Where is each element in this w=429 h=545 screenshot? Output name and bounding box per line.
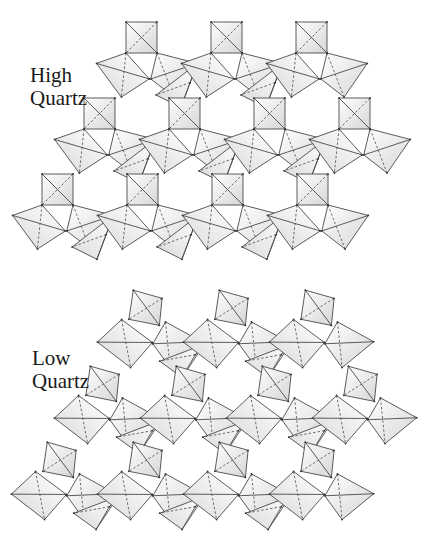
tetrahedron	[343, 365, 378, 402]
tetrahedron	[12, 204, 67, 250]
high-quartz-label-line1: High	[30, 64, 87, 87]
low-quartz-label-line2: Quartz	[32, 370, 89, 393]
tetrahedron	[257, 365, 292, 402]
tetrahedron	[324, 473, 375, 520]
tetrahedron	[54, 395, 111, 445]
tetrahedron	[83, 97, 116, 130]
high-quartz-label: High Quartz	[30, 64, 87, 110]
tetrahedron	[128, 289, 163, 326]
tetrahedron	[211, 173, 244, 206]
high-quartz-label-line2: Quartz	[30, 87, 87, 110]
high-quartz-framework	[12, 21, 412, 260]
tetrahedron	[214, 289, 249, 326]
tetrahedron	[296, 173, 329, 206]
tetrahedron	[11, 471, 68, 521]
tetrahedron	[128, 441, 163, 478]
tetrahedron	[54, 128, 109, 174]
tetrahedron	[214, 441, 249, 478]
tetrahedron	[41, 173, 74, 206]
tetrahedron	[321, 204, 369, 250]
tetrahedron	[96, 52, 151, 98]
tetrahedron	[363, 128, 411, 174]
tetrahedron	[338, 97, 371, 130]
tetrahedron	[97, 319, 154, 369]
tetrahedron	[295, 21, 328, 54]
tetrahedron	[42, 441, 77, 478]
tetrahedron	[300, 441, 335, 478]
low-quartz-label-line1: Low	[32, 347, 89, 370]
tetrahedron	[126, 173, 159, 206]
tetrahedron	[171, 365, 206, 402]
low-quartz-label: Low Quartz	[32, 347, 89, 393]
tetrahedron	[367, 397, 418, 444]
tetrahedron	[168, 97, 201, 130]
tetrahedron	[300, 289, 335, 326]
tetrahedron	[85, 365, 120, 402]
tetrahedron	[320, 52, 368, 98]
tetrahedron	[253, 97, 286, 130]
tetrahedron	[210, 21, 243, 54]
low-quartz-framework	[11, 289, 418, 530]
tetrahedron	[324, 321, 375, 368]
tetrahedron	[125, 21, 158, 54]
